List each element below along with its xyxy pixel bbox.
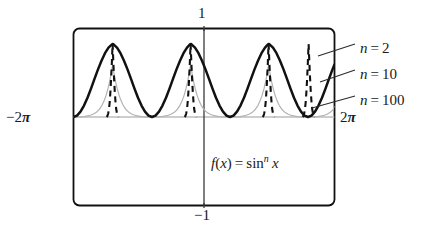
x-axis-max-number: 2 [340,109,348,125]
legend-equals: = [371,40,379,56]
legend-n-symbol: n [360,40,368,56]
legend-item-n-2: n = 2 [360,40,390,57]
function-annotation: f(x) = sinn x [211,154,279,171]
sin-operator: sin [246,155,264,171]
y-axis-min-label: −1 [194,208,210,223]
equals-sign: = [235,155,243,171]
paren-close: ) [227,155,232,171]
variable-x: x [272,155,279,171]
legend-n-symbol: n [360,66,368,82]
x-axis-min-number: −2 [6,109,22,125]
legend-value: 10 [382,66,397,82]
x-axis-max-label: 2π [340,110,356,125]
legend-equals: = [371,92,379,108]
figure-container: 1 −1 −2π 2π f(x) = sinn x n = 2 n = 10 n… [0,0,425,230]
legend-item-n-10: n = 10 [360,66,397,83]
pi-symbol: π [348,109,356,125]
variable-x: x [220,155,227,171]
y-axis-max-label: 1 [198,6,206,21]
legend-item-n-100: n = 100 [360,92,405,109]
legend-n-symbol: n [360,92,368,108]
exponent-n: n [264,153,269,164]
legend-value: 2 [382,40,390,56]
legend-value: 100 [382,92,405,108]
legend-equals: = [371,66,379,82]
pi-symbol: π [22,109,30,125]
x-axis-min-label: −2π [6,110,30,125]
sin-power-plot [0,0,425,230]
